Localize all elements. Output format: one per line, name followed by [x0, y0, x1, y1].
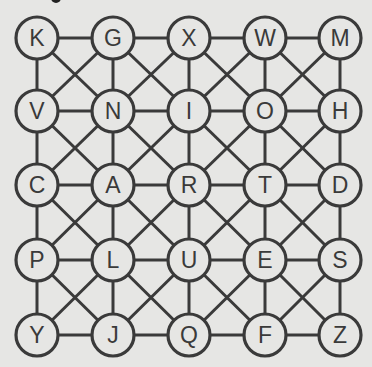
node-letter: R [181, 172, 198, 198]
node-letter: L [107, 247, 120, 273]
node-letter: A [105, 172, 121, 198]
letter-node-h[interactable]: H [319, 90, 361, 132]
letter-node-j[interactable]: J [92, 314, 134, 356]
node-letter: M [330, 25, 349, 51]
letter-grid-board: KGXWMVNIOHCARTDPLUESYJQFZ [0, 0, 372, 367]
node-letter: G [104, 25, 122, 51]
letter-node-k[interactable]: K [16, 17, 58, 59]
node-letter: T [258, 172, 272, 198]
node-letter: S [332, 247, 347, 273]
letter-node-m[interactable]: M [319, 17, 361, 59]
letter-node-e[interactable]: E [244, 239, 286, 281]
node-letter: E [257, 247, 272, 273]
node-letter: V [29, 98, 45, 124]
node-letter: D [332, 172, 349, 198]
letter-node-w[interactable]: W [244, 17, 286, 59]
letter-node-a[interactable]: A [92, 164, 134, 206]
letter-node-l[interactable]: L [92, 239, 134, 281]
node-letter: J [107, 322, 119, 348]
letter-node-i[interactable]: I [168, 90, 210, 132]
letter-node-t[interactable]: T [244, 164, 286, 206]
node-letter: O [256, 98, 274, 124]
letter-node-d[interactable]: D [319, 164, 361, 206]
letter-node-g[interactable]: G [92, 17, 134, 59]
node-letter: I [186, 98, 192, 124]
ink-dot [51, 0, 61, 3]
letter-node-q[interactable]: Q [168, 314, 210, 356]
letter-node-f[interactable]: F [244, 314, 286, 356]
node-letter: U [181, 247, 198, 273]
node-letter: H [332, 98, 349, 124]
node-letter: Z [333, 322, 347, 348]
node-letter: Y [29, 322, 44, 348]
letter-node-o[interactable]: O [244, 90, 286, 132]
node-letter: C [29, 172, 46, 198]
letter-node-z[interactable]: Z [319, 314, 361, 356]
node-letter: K [29, 25, 45, 51]
node-letter: X [181, 25, 196, 51]
letter-node-s[interactable]: S [319, 239, 361, 281]
letter-node-v[interactable]: V [16, 90, 58, 132]
letter-node-p[interactable]: P [16, 239, 58, 281]
letter-node-n[interactable]: N [92, 90, 134, 132]
letter-node-y[interactable]: Y [16, 314, 58, 356]
letter-node-u[interactable]: U [168, 239, 210, 281]
letter-node-c[interactable]: C [16, 164, 58, 206]
node-letter: F [258, 322, 272, 348]
node-letter: N [105, 98, 122, 124]
letter-node-r[interactable]: R [168, 164, 210, 206]
node-letter: Q [180, 322, 198, 348]
letter-node-x[interactable]: X [168, 17, 210, 59]
node-letter: P [29, 247, 44, 273]
node-letter: W [254, 25, 276, 51]
